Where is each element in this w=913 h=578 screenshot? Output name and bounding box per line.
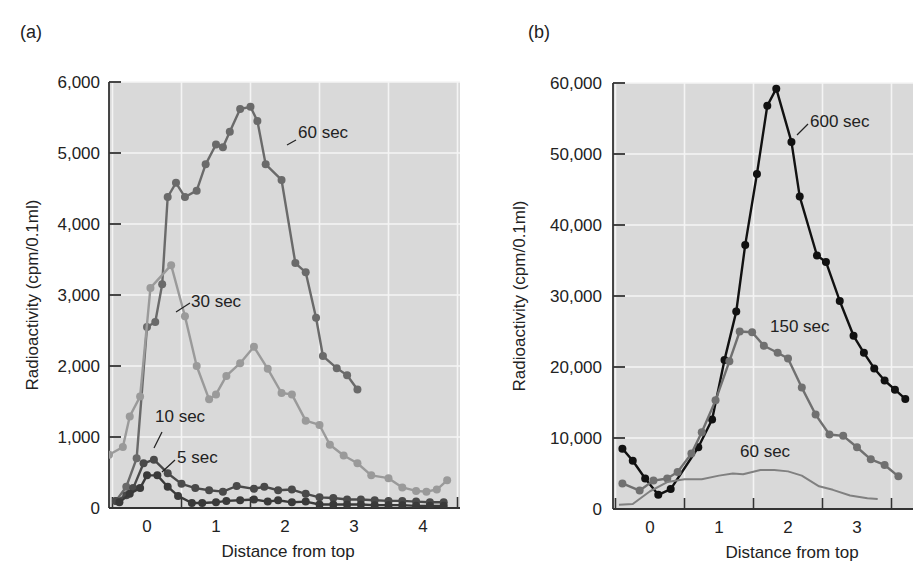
data-point [278, 176, 286, 184]
chart-b: 010,00020,00030,00040,00050,00060,000012… [510, 74, 913, 562]
data-point [353, 459, 361, 467]
data-point [357, 500, 365, 508]
data-point [753, 170, 761, 178]
series-annotation: 60 sec [740, 442, 791, 461]
data-point [274, 486, 282, 494]
data-point [262, 160, 270, 168]
data-point [760, 342, 768, 350]
data-point [193, 362, 201, 370]
data-point [367, 471, 375, 479]
data-point [772, 85, 780, 93]
x-axis-label: Distance from top [221, 542, 354, 561]
data-point [674, 468, 682, 476]
data-point [343, 500, 351, 508]
data-point [153, 471, 161, 479]
data-point [167, 261, 175, 269]
data-point [288, 498, 296, 506]
data-point [813, 252, 821, 260]
data-point [687, 450, 695, 458]
y-tick-label: 4,000 [57, 215, 100, 234]
data-point [812, 411, 820, 419]
data-point [316, 421, 324, 429]
data-point [264, 365, 272, 373]
data-point [667, 485, 675, 493]
data-point [302, 490, 310, 498]
data-point [164, 483, 172, 491]
y-tick-label: 40,000 [550, 216, 602, 235]
data-point [126, 412, 134, 420]
y-tick-label: 60,000 [550, 74, 602, 93]
data-point [212, 140, 220, 148]
data-point [881, 461, 889, 469]
data-point [839, 432, 847, 440]
data-point [433, 486, 441, 494]
data-point [164, 469, 172, 477]
data-point [891, 386, 899, 394]
data-point [291, 259, 299, 267]
y-tick-label: 3,000 [57, 286, 100, 305]
data-point [316, 500, 324, 508]
data-point [126, 490, 134, 498]
data-point [219, 143, 227, 151]
series-annotation: 60 sec [298, 123, 349, 142]
data-point [870, 364, 878, 372]
data-point [253, 117, 261, 125]
data-point [316, 493, 324, 501]
x-tick-label: 4 [418, 517, 427, 536]
data-point [233, 482, 241, 490]
data-point [236, 496, 244, 504]
data-point [850, 332, 858, 340]
data-point [250, 485, 258, 493]
data-point [205, 395, 213, 403]
data-point [353, 385, 361, 393]
data-point [340, 451, 348, 459]
data-point [343, 371, 351, 379]
series-annotation: 10 sec [155, 407, 206, 426]
data-point [115, 498, 123, 506]
data-point [146, 284, 154, 292]
data-point [796, 193, 804, 201]
data-point [825, 430, 833, 438]
data-point [178, 480, 186, 488]
data-point [247, 103, 255, 111]
data-point [398, 483, 406, 491]
data-point [302, 417, 310, 425]
y-tick-label: 0 [91, 499, 100, 518]
data-point [172, 179, 180, 187]
data-point [649, 477, 657, 485]
data-point [853, 443, 861, 451]
data-point [881, 376, 889, 384]
data-point [763, 102, 771, 110]
data-point [202, 160, 210, 168]
data-point [894, 472, 902, 480]
data-point [302, 268, 310, 276]
data-point [629, 457, 637, 465]
data-point [140, 459, 148, 467]
data-point [787, 138, 795, 146]
data-point [618, 445, 626, 453]
y-tick-label: 5,000 [57, 144, 100, 163]
figure-canvas: 01,0002,0003,0004,0005,0006,00001234Dist… [0, 0, 913, 578]
data-point [143, 471, 151, 479]
data-point [222, 372, 230, 380]
data-point [712, 396, 720, 404]
data-point [288, 390, 296, 398]
data-point [741, 241, 749, 249]
data-point [150, 456, 158, 464]
x-tick-label: 1 [714, 518, 723, 537]
data-point [222, 497, 230, 505]
data-point [326, 441, 334, 449]
data-point [205, 486, 213, 494]
y-tick-label: 1,000 [57, 428, 100, 447]
data-point [158, 280, 166, 288]
data-point [151, 318, 159, 326]
data-point [636, 487, 644, 495]
data-point [412, 487, 420, 495]
data-point [260, 483, 268, 491]
data-point [385, 501, 393, 509]
y-tick-label: 0 [593, 500, 602, 519]
y-tick-label: 2,000 [57, 357, 100, 376]
data-point [198, 499, 206, 507]
data-point [188, 499, 196, 507]
x-tick-label: 2 [783, 518, 792, 537]
